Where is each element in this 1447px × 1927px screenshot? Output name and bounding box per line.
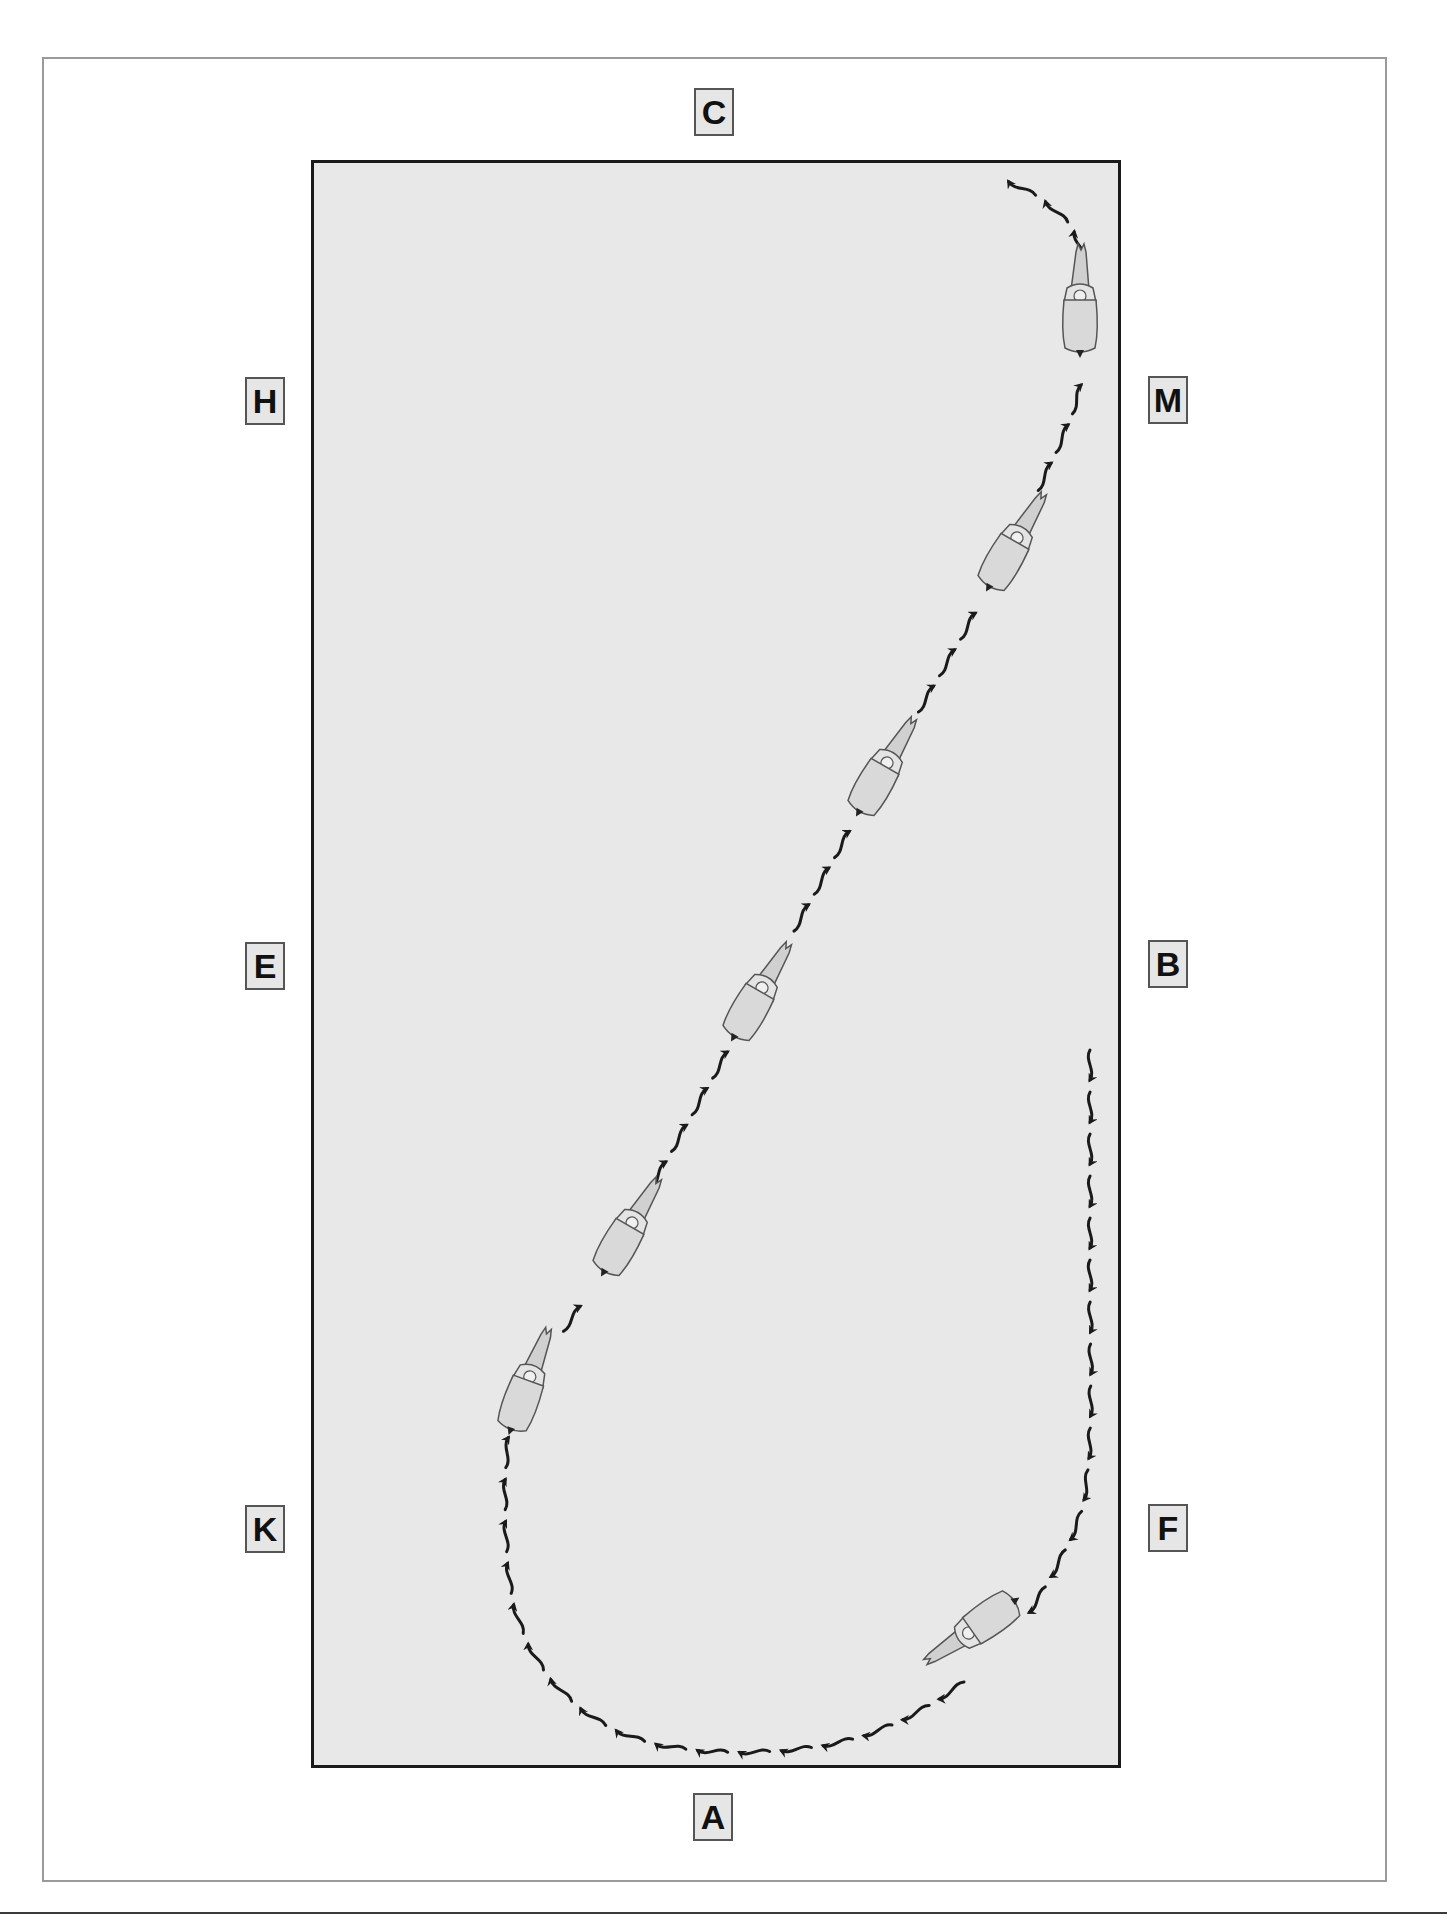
arena-marker-c: C (694, 88, 734, 136)
arena-marker-b: B (1148, 940, 1188, 988)
arena-marker-k: K (245, 1505, 285, 1553)
arena-marker-e: E (245, 942, 285, 990)
dressage-arena (311, 160, 1121, 1768)
arena-marker-m: M (1148, 376, 1188, 424)
arena-marker-a: A (693, 1793, 733, 1841)
arena-marker-h: H (245, 377, 285, 425)
page-bottom-rule (0, 1912, 1447, 1914)
arena-marker-f: F (1148, 1504, 1188, 1552)
